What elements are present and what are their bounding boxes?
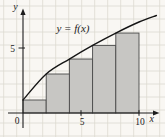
- x-axis-label: x: [149, 113, 155, 124]
- riemann-plot-svg: 05105xyy = f(x): [0, 0, 165, 137]
- curve-annotation: y = f(x): [55, 22, 89, 35]
- riemann-rectangle: [69, 59, 92, 113]
- x-tick-label-10: 10: [135, 117, 145, 127]
- y-tick-label-5: 5: [10, 44, 15, 54]
- x-tick-label-5: 5: [80, 117, 85, 127]
- y-axis-label: y: [12, 1, 18, 12]
- riemann-rectangle: [23, 100, 46, 113]
- riemann-rectangle: [116, 33, 139, 113]
- riemann-sum-figure: 05105xyy = f(x): [0, 0, 165, 137]
- riemann-rectangle: [93, 45, 116, 113]
- riemann-rectangle: [46, 74, 69, 113]
- x-tick-label-0: 0: [15, 116, 20, 126]
